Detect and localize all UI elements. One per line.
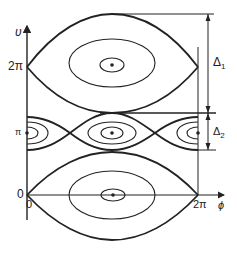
fixed-point-2pi — [110, 63, 114, 67]
phi-axis-label: ϕ — [218, 200, 224, 211]
v-axis-label: υ — [15, 26, 22, 38]
tick-0-phi: 0 — [26, 199, 32, 210]
diagram-canvas — [0, 0, 237, 253]
fixed-point-0 — [111, 193, 115, 197]
tick-2pi-phi: 2π — [193, 199, 207, 210]
delta2-label: Δ2 — [213, 126, 225, 140]
tick-2pi-v: 2π — [8, 60, 23, 72]
fixed-point-pi-center — [110, 131, 114, 135]
tick-0-v: 0 — [17, 188, 24, 200]
orbits-pi-left — [27, 122, 48, 144]
orbit-2pi-outer — [69, 39, 155, 87]
phase-space-diagram: υ 2π π 0 0 2π ϕ Δ1 Δ2 — [0, 0, 237, 253]
delta1-label: Δ1 — [213, 56, 225, 71]
fixed-point-pi-left — [25, 131, 29, 135]
orbits-pi-right — [177, 122, 198, 144]
fixed-point-pi-right — [196, 131, 200, 135]
tick-pi-v: π — [15, 128, 21, 137]
